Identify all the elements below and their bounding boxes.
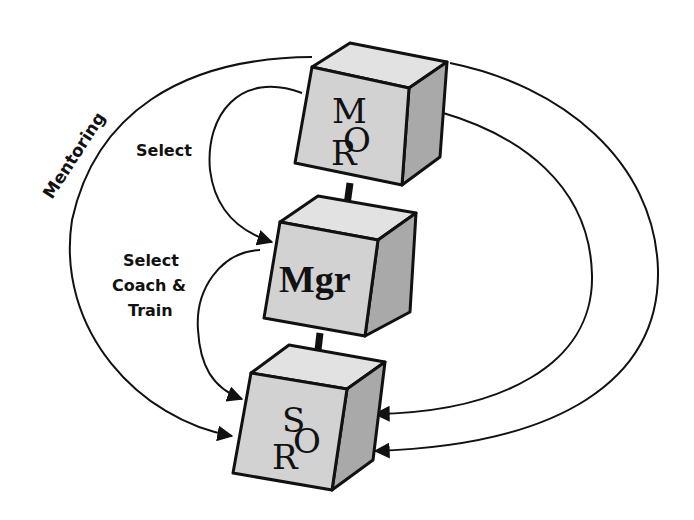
cube-middle-label: Mgr <box>279 258 351 300</box>
cube-bottom-letter-r: R <box>272 437 299 477</box>
label-select: Select <box>136 141 192 160</box>
cube-middle: Mgr <box>264 196 416 336</box>
cube-top-letter-r: R <box>331 133 358 173</box>
label-mentoring: Mentoring <box>39 108 110 202</box>
cube-bottom: S O R <box>233 345 385 490</box>
cube-top: M O R <box>295 43 447 185</box>
label-select-coach-train-line3: Train <box>128 301 173 320</box>
label-select-coach-train-line1: Select <box>123 251 179 270</box>
mentoring-hierarchy-diagram: M O R Mgr S O R Mentoring Select Select … <box>0 0 694 520</box>
label-select-coach-train-line2: Coach & <box>112 276 186 295</box>
